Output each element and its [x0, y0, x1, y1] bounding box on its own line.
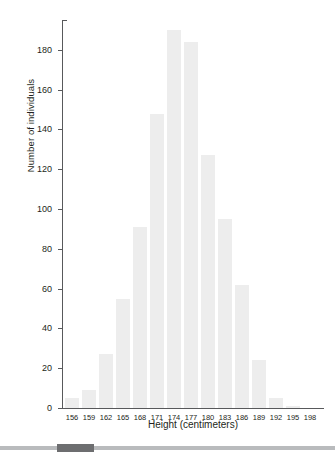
histogram-bar	[99, 354, 113, 408]
y-tick-mark	[58, 328, 62, 329]
histogram-page: Number of individuals 020406080100120140…	[0, 0, 335, 456]
y-tick-mark	[58, 368, 62, 369]
y-tick-label: 0	[22, 404, 52, 413]
y-tick-label: 60	[22, 285, 52, 294]
y-tick-mark	[58, 408, 62, 409]
histogram-bar	[269, 398, 283, 408]
chart-figure: Number of individuals 020406080100120140…	[0, 0, 335, 440]
histogram-bar	[65, 398, 79, 408]
y-tick-mark	[58, 249, 62, 250]
histogram-bar	[133, 227, 147, 408]
y-tick-label: 100	[22, 205, 52, 214]
y-tick-label: 180	[22, 46, 52, 55]
histogram-bar	[201, 155, 215, 408]
histogram-bar	[252, 360, 266, 408]
histogram-bar	[184, 42, 198, 408]
histogram-bar	[235, 285, 249, 408]
y-tick-label: 20	[22, 364, 52, 373]
y-tick-mark	[58, 169, 62, 170]
y-tick-label: 120	[22, 165, 52, 174]
scrollbar-thumb[interactable]	[57, 444, 94, 452]
histogram-bar	[167, 30, 181, 408]
histogram-bar	[150, 114, 164, 408]
x-axis-line	[62, 408, 324, 409]
plot-area: 020406080100120140160180 156159162165168…	[62, 20, 324, 408]
y-tick-label: 140	[22, 125, 52, 134]
x-axis-title: Height (centimeters)	[62, 419, 324, 430]
y-axis-cap	[62, 20, 67, 21]
y-tick-mark	[58, 129, 62, 130]
y-tick-mark	[58, 50, 62, 51]
y-tick-label: 40	[22, 324, 52, 333]
scrollbar-track[interactable]	[0, 446, 335, 450]
horizontal-scrollbar[interactable]	[0, 444, 335, 452]
y-tick-mark	[58, 90, 62, 91]
y-tick-mark	[58, 289, 62, 290]
histogram-bar	[218, 219, 232, 408]
y-tick-mark	[58, 209, 62, 210]
histogram-bar	[116, 299, 130, 408]
y-tick-label: 80	[22, 245, 52, 254]
y-axis-line	[62, 20, 63, 409]
histogram-bar	[286, 406, 300, 408]
y-tick-label: 160	[22, 86, 52, 95]
histogram-bar	[82, 390, 96, 408]
